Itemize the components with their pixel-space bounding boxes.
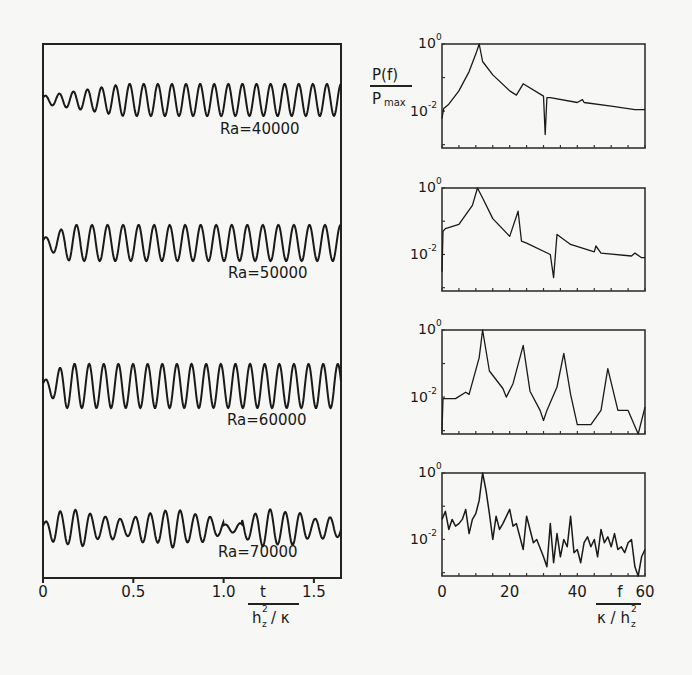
frequency-axis-label: f κ / h 2 z bbox=[596, 583, 641, 629]
x-tick-label: 20 bbox=[500, 583, 519, 601]
ytick-10e0: 10 bbox=[418, 321, 436, 337]
subscript-z: z bbox=[631, 619, 636, 629]
time-trace bbox=[43, 84, 341, 116]
ra-label: Ra=70000 bbox=[218, 543, 298, 561]
time-axis-label-den-h: h bbox=[252, 609, 262, 627]
x-tick-label: 0 bbox=[38, 583, 48, 601]
svg-text:-2: -2 bbox=[428, 100, 437, 110]
frequency-axis-label-den: κ / h bbox=[597, 609, 630, 627]
x-tick-label: 1.0 bbox=[212, 583, 236, 601]
svg-text:0: 0 bbox=[436, 176, 442, 186]
time-series-panel: Ra=40000Ra=50000Ra=60000Ra=70000 00.51.0… bbox=[38, 44, 341, 629]
ytick-10e0: 10 bbox=[418, 179, 436, 195]
spectrum-curve bbox=[442, 188, 645, 278]
x-tick-label: 40 bbox=[568, 583, 587, 601]
ytick-10e-2: 10 bbox=[410, 246, 428, 262]
time-trace bbox=[43, 509, 341, 547]
time-axis-label-num: t bbox=[260, 583, 266, 601]
x-tick-label: 0 bbox=[437, 583, 447, 601]
spectrum-panel: 10010-2 bbox=[410, 176, 645, 291]
time-series-labels: Ra=40000Ra=50000Ra=60000Ra=70000 bbox=[218, 120, 308, 561]
time-series-traces bbox=[43, 84, 341, 548]
ytick-10e-2: 10 bbox=[410, 103, 428, 119]
svg-text:-2: -2 bbox=[428, 386, 437, 396]
svg-text:0: 0 bbox=[436, 461, 442, 471]
ylabel-den: P bbox=[372, 90, 381, 108]
spectrum-ylabel: P(f) P max bbox=[370, 66, 412, 108]
spectrum-curve bbox=[442, 473, 645, 576]
svg-text:0: 0 bbox=[436, 318, 442, 328]
svg-text:-2: -2 bbox=[428, 528, 437, 538]
ytick-10e0: 10 bbox=[418, 464, 436, 480]
svg-text:-2: -2 bbox=[428, 243, 437, 253]
ytick-10e-2: 10 bbox=[410, 389, 428, 405]
subscript-z: z bbox=[262, 619, 267, 629]
x-tick-label: 60 bbox=[635, 583, 654, 601]
ytick-10e0: 10 bbox=[418, 35, 436, 51]
svg-text:0: 0 bbox=[436, 32, 442, 42]
superscript-2: 2 bbox=[631, 604, 637, 614]
spectrum-curve bbox=[442, 330, 645, 434]
spectrum-curve bbox=[442, 44, 645, 135]
figure: Ra=40000Ra=50000Ra=60000Ra=70000 00.51.0… bbox=[0, 0, 692, 675]
ra-label: Ra=40000 bbox=[220, 120, 300, 138]
time-trace bbox=[43, 364, 341, 408]
superscript-2: 2 bbox=[262, 604, 268, 614]
x-tick-label: 0.5 bbox=[121, 583, 145, 601]
x-tick-label: 1.5 bbox=[302, 583, 326, 601]
time-axis-label: t h 2 z / κ bbox=[248, 583, 299, 629]
ylabel-num: P(f) bbox=[372, 66, 398, 84]
ytick-10e-2: 10 bbox=[410, 531, 428, 547]
spectrum-panel: 10010-2 bbox=[410, 32, 645, 148]
time-x-axis: 00.51.01.5 bbox=[38, 578, 326, 601]
ra-label: Ra=60000 bbox=[227, 411, 307, 429]
ra-label: Ra=50000 bbox=[228, 264, 308, 282]
spectrum-panel: 10010-2 bbox=[410, 318, 645, 434]
spectra-group: 10010-210010-210010-210010-2 bbox=[410, 32, 645, 576]
spectrum-frame bbox=[442, 473, 645, 576]
time-axis-label-den-rest: / κ bbox=[271, 609, 290, 627]
spectrum-panel: 10010-2 bbox=[410, 461, 645, 576]
power-spectra-panels: P(f) P max 10010-210010-210010-210010-2 … bbox=[370, 32, 655, 629]
time-trace bbox=[43, 225, 341, 261]
frequency-axis-label-num: f bbox=[617, 583, 623, 601]
ylabel-den-sub: max bbox=[384, 97, 406, 108]
